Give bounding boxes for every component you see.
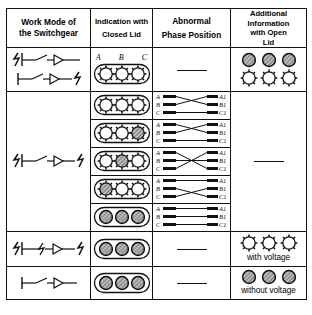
header-abnormal-phase-position: Abnormal Phase Position <box>153 9 231 48</box>
cell-phase-row6: A B C A1 B1 C1 <box>153 203 231 231</box>
svg-text:C1: C1 <box>219 165 227 172</box>
svg-text:C1: C1 <box>219 137 227 144</box>
svg-text:C: C <box>156 193 161 200</box>
svg-text:C: C <box>156 137 161 144</box>
indicator-capsule <box>93 271 151 295</box>
indicator-capsule <box>93 237 151 261</box>
cell-open-lid-row7: with voltage <box>231 231 307 266</box>
switchgear-symbol-group <box>7 272 90 294</box>
svg-text:A: A <box>155 93 160 100</box>
cell-open-lid-middle-block <box>231 91 307 231</box>
cell-indicator-row2 <box>91 91 153 119</box>
indicator-lamp-a <box>97 65 114 82</box>
cell-open-lid-row1 <box>231 48 307 92</box>
header-abnormal-line2: Phase Position <box>153 30 230 41</box>
header-additional-line4: Lid <box>231 38 306 48</box>
svg-text:B: B <box>156 129 160 136</box>
cell-indicator-row7 <box>91 231 153 266</box>
cell-work-mode-row7 <box>7 231 91 266</box>
indicator-capsule <box>93 93 151 117</box>
open-lid-group: without voltage <box>231 267 306 298</box>
header-indication-closed-lid: Indication with Closed Lid <box>91 9 153 48</box>
header-additional-line2: Information <box>231 19 306 29</box>
cell-open-lid-row8: without voltage <box>231 266 307 299</box>
svg-text:A: A <box>155 205 160 212</box>
switch-symbol-both-ends-icon <box>9 153 89 169</box>
table-row: A B C <box>7 48 307 92</box>
cell-indicator-row6 <box>91 203 153 231</box>
svg-text:B1: B1 <box>219 185 226 192</box>
cell-phase-row1 <box>153 48 231 92</box>
phase-diagram-cross-ab: A B C A1 B1 C1 <box>155 92 229 118</box>
header-indication-line2: Closed Lid <box>91 30 152 40</box>
indicator-lamp-c <box>129 65 146 82</box>
table-header-row: Work Mode of the Switchgear Indication w… <box>7 9 307 48</box>
no-phase-dash <box>177 70 207 71</box>
switch-symbol-without-voltage-icon <box>9 275 89 291</box>
svg-text:A1: A1 <box>218 121 226 128</box>
open-lid-group <box>231 50 306 89</box>
cell-phase-row4: A B C A1 B1 C1 <box>153 147 231 175</box>
svg-text:C1: C1 <box>219 221 227 228</box>
svg-text:A1: A1 <box>218 205 226 212</box>
with-voltage-label: with voltage <box>247 253 290 263</box>
phase-diagram-cross-bc: A B C A1 B1 C1 <box>155 176 229 202</box>
no-info-dash <box>254 161 284 162</box>
indicator-capsule <box>93 121 151 145</box>
indicator-capsule <box>93 177 151 201</box>
svg-text:A: A <box>155 177 160 184</box>
header-additional-info-open-lid: Additional Information with Open Lid <box>231 9 307 48</box>
svg-text:A: A <box>155 121 160 128</box>
switch-symbol-with-voltage-icon <box>9 241 89 257</box>
header-work-mode-line2: the Switchgear <box>7 28 90 39</box>
cell-work-mode-row8 <box>7 266 91 299</box>
svg-text:A1: A1 <box>218 93 226 100</box>
svg-text:B1: B1 <box>219 157 226 164</box>
indicator-capsule <box>93 62 151 86</box>
header-additional-line1: Additional <box>231 9 306 19</box>
phase-diagram-cross-ab: A B C A1 B1 C1 <box>155 120 229 146</box>
indicator-lamp-b <box>113 65 130 82</box>
header-additional-line3: with Open <box>231 28 306 38</box>
cell-indicator-row1: A B C <box>91 48 153 92</box>
phase-diagram-straight: A B C A1 B1 C1 <box>155 204 229 230</box>
svg-text:B: B <box>156 185 160 192</box>
cell-work-mode-row1 <box>7 48 91 92</box>
svg-text:B1: B1 <box>219 129 226 136</box>
header-indication-line1: Indication with <box>91 17 152 27</box>
phase-diagram-cross-ac: A B C A1 B1 C1 <box>155 148 229 174</box>
header-abnormal-line1: Abnormal <box>153 16 230 27</box>
indicator-label-c: C <box>138 53 152 62</box>
switch-symbol-source-left-icon <box>10 52 88 68</box>
without-voltage-label: without voltage <box>241 286 296 296</box>
indicator-capsule <box>93 149 151 173</box>
switch-symbol-source-right-icon <box>10 71 88 87</box>
table-row: A B C A1 B1 C1 <box>7 91 307 119</box>
cell-indicator-row3 <box>91 119 153 147</box>
cell-phase-row8 <box>153 266 231 299</box>
svg-text:C: C <box>156 109 161 116</box>
open-lid-shaded-row <box>238 269 300 285</box>
open-lid-gear-row <box>238 69 300 87</box>
switchgear-symbol-group <box>7 49 90 90</box>
cell-phase-row2: A B C A1 B1 C1 <box>153 91 231 119</box>
cell-work-mode-middle-block <box>7 91 91 231</box>
cell-indicator-row8 <box>91 266 153 299</box>
svg-text:A1: A1 <box>218 149 226 156</box>
switchgear-table: Work Mode of the Switchgear Indication w… <box>6 8 307 300</box>
svg-text:B1: B1 <box>219 213 226 220</box>
svg-text:C1: C1 <box>219 193 227 200</box>
svg-text:C: C <box>156 165 161 172</box>
table-row: without voltage <box>7 266 307 299</box>
cell-indicator-row4 <box>91 147 153 175</box>
indicator-capsule <box>93 205 151 229</box>
svg-text:A: A <box>155 149 160 156</box>
indicator-phase-labels: A B C <box>91 53 152 62</box>
header-work-mode: Work Mode of the Switchgear <box>7 9 91 48</box>
no-phase-dash <box>177 283 207 284</box>
svg-text:B: B <box>156 157 160 164</box>
svg-text:A1: A1 <box>218 177 226 184</box>
cell-phase-row5: A B C A1 B1 C1 <box>153 175 231 203</box>
open-lid-gear-row <box>238 234 300 252</box>
open-lid-group: with voltage <box>231 232 306 265</box>
